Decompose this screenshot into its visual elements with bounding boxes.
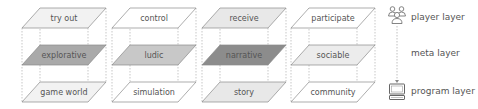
program-layer-plane-ludic: simulation — [112, 82, 196, 102]
player-layer-plane-narrative: receive — [202, 8, 286, 28]
layer-diagram: try outexplorativegame worldcontrolludic… — [0, 0, 478, 109]
plane-label: control — [140, 14, 168, 23]
diagram-canvas: try outexplorativegame worldcontrolludic… — [0, 0, 478, 109]
plane-label: narrative — [226, 51, 262, 60]
plane-label: participate — [311, 14, 354, 23]
plane-label: receive — [229, 14, 258, 23]
plane-label: explorative — [42, 51, 87, 60]
meta-layer-plane-ludic: ludic — [112, 45, 196, 65]
column-narrative: receivenarrativestory — [202, 8, 286, 102]
player-layer-plane-explorative: try out — [22, 8, 106, 28]
plane-label: story — [234, 88, 254, 97]
column-explorative: try outexplorativegame world — [22, 8, 106, 102]
computer-icon — [390, 84, 405, 100]
columns-group: try outexplorativegame worldcontrolludic… — [22, 8, 375, 102]
column-ludic: controlludicsimulation — [112, 8, 196, 102]
program-layer-plane-sociable: community — [291, 82, 375, 102]
arrow-head-icon — [395, 80, 399, 83]
column-sociable: participatesociablecommunity — [291, 8, 375, 102]
program-layer-plane-explorative: game world — [22, 82, 106, 102]
plane-label: community — [310, 88, 355, 97]
meta-layer-plane-narrative: narrative — [202, 45, 286, 65]
plane-label: sociable — [317, 51, 350, 60]
plane-label: ludic — [145, 51, 164, 60]
player-layer-plane-ludic: control — [112, 8, 196, 28]
plane-label: game world — [40, 88, 87, 97]
player-layer-label: player layer — [411, 12, 465, 22]
plane-label: simulation — [133, 88, 175, 97]
plane-label: try out — [51, 14, 78, 23]
program-layer-label: program layer — [411, 86, 475, 96]
meta-layer-label: meta layer — [411, 48, 460, 58]
player-layer-plane-sociable: participate — [291, 8, 375, 28]
meta-layer-plane-sociable: sociable — [291, 45, 375, 65]
meta-layer-plane-explorative: explorative — [22, 45, 106, 65]
people-group-icon — [389, 7, 406, 24]
program-layer-plane-narrative: story — [202, 82, 286, 102]
